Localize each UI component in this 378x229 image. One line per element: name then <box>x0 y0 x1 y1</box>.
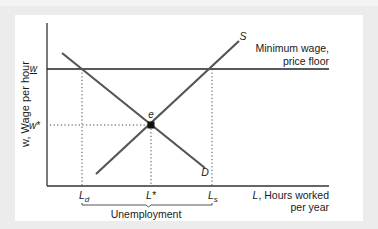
equilibrium-point <box>148 122 155 129</box>
x-axis-label-line2: per year <box>290 201 329 213</box>
labor-market-chart: w, Wage per hour w w* e S D Minimum wage… <box>0 0 378 229</box>
supply-curve <box>96 41 239 174</box>
demand-label: D <box>201 166 209 178</box>
ld-label: Ld <box>79 189 90 204</box>
x-axis-label-line1: L, Hours worked <box>253 189 330 201</box>
unemployment-bracket <box>82 203 212 207</box>
minimum-wage-label-line1: Minimum wage, <box>255 42 329 54</box>
equilibrium-label: e <box>148 109 154 120</box>
ls-label: Ls <box>208 189 218 204</box>
w-star-label: w* <box>29 120 41 131</box>
unemployment-label: Unemployment <box>111 208 182 220</box>
minimum-wage-label-line2: price floor <box>283 55 330 67</box>
demand-curve <box>62 53 205 168</box>
lstar-label: L* <box>146 189 157 201</box>
figure-frame: w, Wage per hour w w* e S D Minimum wage… <box>0 0 378 229</box>
supply-label: S <box>239 30 246 42</box>
w-floor-label: w <box>30 63 38 74</box>
